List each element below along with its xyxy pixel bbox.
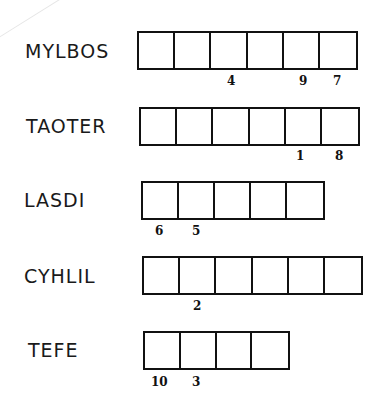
clue-number: 9 <box>299 75 307 87</box>
letter-box[interactable] <box>252 333 288 368</box>
scrambled-word-lasdi: LASDI <box>24 190 85 210</box>
answer-grid-tefe <box>143 331 290 370</box>
letter-box[interactable] <box>253 258 289 293</box>
clue-number: 5 <box>192 225 200 237</box>
clue-number: 2 <box>193 300 201 312</box>
letter-box[interactable] <box>286 109 322 144</box>
clue-number: 3 <box>192 376 200 388</box>
letter-box[interactable] <box>322 109 358 144</box>
letter-box[interactable] <box>215 183 251 218</box>
letter-box[interactable] <box>141 109 177 144</box>
letter-box[interactable] <box>144 258 180 293</box>
letter-box[interactable] <box>177 109 213 144</box>
answer-grid-mylbos <box>137 31 358 70</box>
letter-box[interactable] <box>213 109 249 144</box>
letter-box[interactable] <box>248 33 284 68</box>
letter-box[interactable] <box>287 183 323 218</box>
faint-diagonal-line <box>0 0 130 41</box>
letter-box[interactable] <box>325 258 361 293</box>
clue-number: 10 <box>151 376 168 388</box>
letter-box[interactable] <box>143 183 179 218</box>
letter-box[interactable] <box>145 333 181 368</box>
scrambled-word-cyhlil: CYHLIL <box>24 266 96 286</box>
letter-box[interactable] <box>175 33 211 68</box>
letter-box[interactable] <box>180 258 216 293</box>
clue-number: 6 <box>155 225 163 237</box>
letter-box[interactable] <box>284 33 320 68</box>
clue-number: 4 <box>227 75 235 87</box>
clue-number: 1 <box>296 150 304 162</box>
letter-box[interactable] <box>181 333 217 368</box>
letter-box[interactable] <box>216 258 252 293</box>
answer-grid-taoter <box>139 107 360 146</box>
scrambled-word-tefe: TEFE <box>28 340 79 360</box>
letter-box[interactable] <box>289 258 325 293</box>
clue-number: 7 <box>333 75 341 87</box>
letter-box[interactable] <box>250 109 286 144</box>
letter-box[interactable] <box>217 333 253 368</box>
answer-grid-lasdi <box>141 181 325 220</box>
answer-grid-cyhlil <box>142 256 363 295</box>
letter-box[interactable] <box>211 33 247 68</box>
scrambled-word-taoter: TAOTER <box>26 116 107 136</box>
scrambled-word-mylbos: MYLBOS <box>25 41 109 61</box>
letter-box[interactable] <box>139 33 175 68</box>
clue-number: 8 <box>335 150 343 162</box>
letter-box[interactable] <box>251 183 287 218</box>
letter-box[interactable] <box>320 33 356 68</box>
letter-box[interactable] <box>179 183 215 218</box>
